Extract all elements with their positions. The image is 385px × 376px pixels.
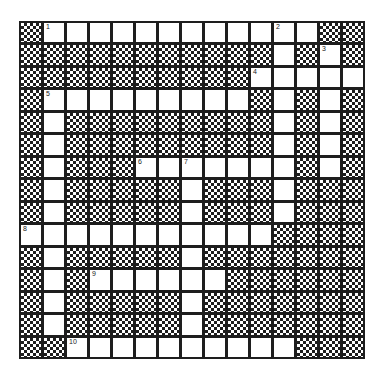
answer-cell[interactable] — [205, 338, 225, 357]
answer-cell[interactable] — [182, 203, 202, 222]
block-cell — [67, 248, 87, 267]
block-cell — [274, 270, 294, 289]
answer-cell[interactable] — [44, 293, 64, 312]
answer-cell[interactable] — [159, 225, 179, 244]
answer-cell[interactable]: 8 — [21, 225, 41, 244]
answer-cell[interactable] — [113, 23, 133, 42]
answer-cell[interactable] — [159, 338, 179, 357]
answer-cell[interactable] — [320, 113, 340, 132]
answer-cell[interactable] — [251, 23, 271, 42]
answer-cell[interactable] — [182, 315, 202, 334]
answer-cell[interactable] — [228, 338, 248, 357]
block-cell — [182, 45, 202, 64]
answer-cell[interactable] — [228, 23, 248, 42]
block-cell — [90, 113, 110, 132]
block-cell — [67, 45, 87, 64]
answer-cell[interactable] — [274, 45, 294, 64]
answer-cell[interactable] — [44, 158, 64, 177]
answer-cell[interactable] — [44, 203, 64, 222]
answer-cell[interactable] — [205, 270, 225, 289]
answer-cell[interactable] — [67, 90, 87, 109]
answer-cell[interactable] — [44, 315, 64, 334]
answer-cell[interactable] — [44, 113, 64, 132]
answer-cell[interactable] — [205, 225, 225, 244]
answer-cell[interactable] — [274, 203, 294, 222]
block-cell — [90, 180, 110, 199]
block-cell — [182, 68, 202, 87]
answer-cell[interactable]: 5 — [44, 90, 64, 109]
answer-cell[interactable] — [320, 158, 340, 177]
answer-cell[interactable] — [182, 338, 202, 357]
answer-cell[interactable] — [228, 158, 248, 177]
block-cell — [320, 270, 340, 289]
answer-cell[interactable]: 4 — [251, 68, 271, 87]
answer-cell[interactable] — [182, 90, 202, 109]
answer-cell[interactable]: 9 — [90, 270, 110, 289]
answer-cell[interactable] — [274, 90, 294, 109]
answer-cell[interactable] — [44, 135, 64, 154]
block-cell — [136, 135, 156, 154]
answer-cell[interactable] — [182, 23, 202, 42]
answer-cell[interactable] — [274, 180, 294, 199]
answer-cell[interactable] — [251, 338, 271, 357]
answer-cell[interactable] — [343, 68, 363, 87]
answer-cell[interactable] — [44, 180, 64, 199]
answer-cell[interactable] — [113, 338, 133, 357]
answer-cell[interactable] — [297, 68, 317, 87]
answer-cell[interactable]: 1 — [44, 23, 64, 42]
answer-cell[interactable] — [274, 68, 294, 87]
answer-cell[interactable] — [274, 338, 294, 357]
answer-cell[interactable] — [251, 225, 271, 244]
answer-cell[interactable] — [136, 23, 156, 42]
answer-cell[interactable] — [44, 248, 64, 267]
answer-cell[interactable] — [90, 90, 110, 109]
answer-cell[interactable]: 3 — [320, 45, 340, 64]
answer-cell[interactable]: 10 — [67, 338, 87, 357]
answer-cell[interactable] — [90, 225, 110, 244]
answer-cell[interactable] — [159, 90, 179, 109]
answer-cell[interactable] — [182, 293, 202, 312]
block-cell — [297, 135, 317, 154]
block-cell — [251, 293, 271, 312]
answer-cell[interactable] — [44, 270, 64, 289]
answer-cell[interactable] — [113, 90, 133, 109]
answer-cell[interactable] — [67, 23, 87, 42]
block-cell — [136, 248, 156, 267]
block-cell — [21, 23, 41, 42]
answer-cell[interactable] — [182, 225, 202, 244]
answer-cell[interactable] — [297, 23, 317, 42]
answer-cell[interactable] — [90, 23, 110, 42]
answer-cell[interactable] — [159, 23, 179, 42]
answer-cell[interactable] — [274, 135, 294, 154]
answer-cell[interactable] — [320, 90, 340, 109]
block-cell — [251, 203, 271, 222]
answer-cell[interactable] — [90, 338, 110, 357]
answer-cell[interactable] — [159, 270, 179, 289]
answer-cell[interactable] — [320, 68, 340, 87]
answer-cell[interactable] — [205, 158, 225, 177]
answer-cell[interactable] — [136, 90, 156, 109]
answer-cell[interactable] — [67, 225, 87, 244]
answer-cell[interactable] — [44, 225, 64, 244]
answer-cell[interactable] — [182, 270, 202, 289]
answer-cell[interactable] — [182, 180, 202, 199]
answer-cell[interactable] — [251, 158, 271, 177]
answer-cell[interactable] — [274, 113, 294, 132]
answer-cell[interactable] — [205, 90, 225, 109]
answer-cell[interactable] — [274, 158, 294, 177]
answer-cell[interactable] — [113, 270, 133, 289]
answer-cell[interactable] — [205, 23, 225, 42]
block-cell — [251, 270, 271, 289]
answer-cell[interactable] — [320, 135, 340, 154]
answer-cell[interactable] — [113, 225, 133, 244]
answer-cell[interactable]: 2 — [274, 23, 294, 42]
answer-cell[interactable] — [159, 158, 179, 177]
answer-cell[interactable] — [136, 338, 156, 357]
answer-cell[interactable] — [182, 248, 202, 267]
answer-cell[interactable] — [228, 90, 248, 109]
answer-cell[interactable]: 6 — [136, 158, 156, 177]
answer-cell[interactable]: 7 — [182, 158, 202, 177]
answer-cell[interactable] — [228, 225, 248, 244]
answer-cell[interactable] — [136, 225, 156, 244]
answer-cell[interactable] — [136, 270, 156, 289]
